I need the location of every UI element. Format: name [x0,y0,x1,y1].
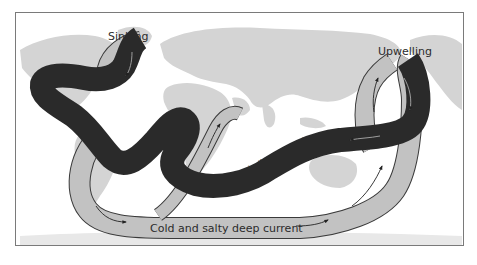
cold-current-label: Cold and salty deep current [150,222,303,235]
sinking-label: Sinking [108,30,148,43]
ocean-conveyor-diagram: Sinking Upwelling Warm shallow current C… [0,0,477,265]
upwelling-label: Upwelling [378,45,432,58]
